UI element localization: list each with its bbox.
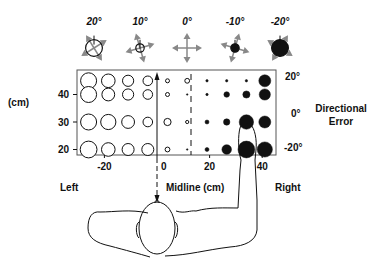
x-tick-label: 20 [204, 161, 216, 172]
target-circle [185, 78, 190, 83]
direction-arrows-icon [172, 33, 202, 63]
target-circle [122, 144, 134, 156]
target-circle [205, 120, 209, 124]
target-circles [80, 73, 272, 158]
target-circle [226, 80, 228, 82]
y-tick-label: 20 [58, 144, 70, 155]
x-tick-label: -20 [97, 161, 112, 172]
target-circle [245, 80, 247, 82]
directional-error-title-2: Error [329, 116, 354, 127]
target-circle [164, 118, 171, 125]
legend: 20°10°0°-10°-20° [73, 16, 300, 69]
legend-label: 0° [182, 16, 193, 27]
target-circle [205, 148, 209, 152]
legend-label: -20° [271, 16, 290, 27]
target-circle [222, 145, 232, 155]
right-scale-bottom: -20° [284, 142, 302, 153]
right-label: Right [275, 182, 301, 193]
midline-up-arrow-icon [155, 72, 160, 80]
target-circle [143, 76, 153, 86]
target-circle [102, 88, 115, 101]
right-scale-mid: 0° [291, 108, 301, 119]
legend-item: -20° [259, 16, 300, 69]
target-circle [259, 75, 271, 87]
directional-error-title-1: Directional [315, 103, 367, 114]
target-circle [165, 147, 170, 152]
target-circle [186, 149, 188, 151]
target-circle [80, 141, 97, 158]
y-tick-label: 40 [58, 89, 70, 100]
target-circle [143, 117, 153, 127]
direction-arrows-icon [73, 27, 114, 68]
target-circle [101, 114, 116, 129]
target-circle [81, 114, 97, 130]
legend-item: 10° [121, 16, 158, 67]
target-circle [224, 92, 230, 98]
x-tick-label: 40 [257, 161, 269, 172]
left-label: Left [60, 182, 79, 193]
right-scale-top: 20° [285, 71, 300, 82]
target-circle [142, 144, 154, 156]
target-circle [102, 143, 116, 157]
y-unit-label: (cm) [8, 97, 29, 108]
target-circle [257, 142, 272, 157]
midline-label: Midline (cm) [166, 182, 224, 193]
directional-error-figure: 20°10°0°-10°-20° 403020 -2002040 (cm) 20… [0, 0, 383, 265]
target-circle [186, 120, 189, 123]
y-axis: 403020 [58, 89, 77, 155]
target-circle [166, 79, 170, 83]
target-circle [259, 116, 271, 128]
target-circle [143, 90, 153, 100]
x-axis: -2002040 [97, 155, 268, 172]
target-circle [243, 91, 250, 98]
target-circle [206, 93, 208, 95]
target-circle [259, 89, 270, 100]
legend-label: -10° [226, 16, 245, 27]
target-circle [122, 116, 135, 129]
target-circle [102, 74, 116, 88]
target-circle [238, 141, 255, 158]
target-circle [186, 94, 188, 96]
target-circle [81, 87, 97, 103]
x-tick-label: 0 [161, 161, 167, 172]
target-circle [123, 89, 134, 100]
legend-item: 0° [172, 16, 202, 63]
target-circle [224, 119, 230, 125]
target-circle [166, 93, 170, 97]
target-circle [123, 75, 134, 86]
legend-label: 20° [85, 16, 102, 27]
y-tick-label: 30 [58, 117, 70, 128]
target-circle [206, 80, 208, 82]
legend-item: -10° [216, 16, 253, 67]
legend-label: 10° [132, 16, 148, 27]
legend-item: 20° [73, 16, 114, 69]
